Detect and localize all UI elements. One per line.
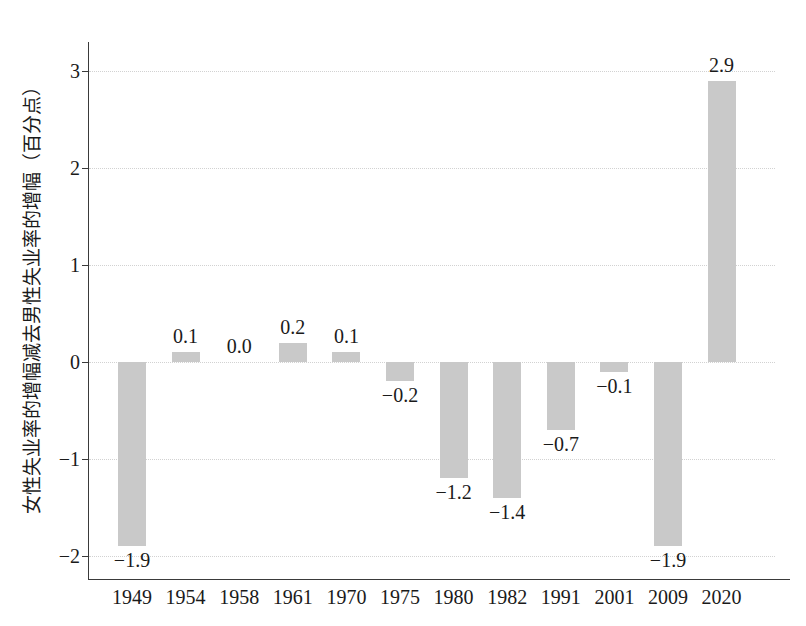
y-tick-mark (82, 556, 88, 557)
bar-value-label: 0.1 (173, 326, 198, 346)
plot-area: 3210−1−2 −1.90.10.00.20.1−0.2−1.2−1.4−0.… (88, 42, 790, 580)
x-tick-label: 1954 (166, 586, 206, 609)
bar (708, 81, 736, 362)
bar-value-label: 0.1 (334, 326, 359, 346)
x-tick-label: 1949 (112, 586, 152, 609)
x-tick-label: 1958 (219, 586, 259, 609)
y-tick-label: 2 (70, 157, 80, 180)
bar-value-label: −0.2 (382, 385, 418, 405)
bar-chart-figure: 女性失业率的增幅减去男性失业率的增幅（百分点） 3210−1−2 −1.90.1… (0, 0, 806, 626)
bar (118, 362, 146, 546)
bar-value-label: −0.7 (543, 434, 579, 454)
x-tick-label: 2020 (702, 586, 742, 609)
y-tick-mark (82, 71, 88, 72)
x-tick-label: 1961 (273, 586, 313, 609)
bar (279, 343, 307, 362)
y-tick-label: 1 (70, 253, 80, 276)
bar (172, 352, 200, 362)
x-tick-label: 2001 (594, 586, 634, 609)
bar (386, 362, 414, 381)
y-axis-title: 女性失业率的增幅减去男性失业率的增幅（百分点） (17, 77, 44, 514)
x-tick-label: 1980 (434, 586, 474, 609)
y-tick-label: 3 (70, 60, 80, 83)
bar (440, 362, 468, 478)
bar-value-label: 2.9 (709, 55, 734, 75)
gridline-2 (89, 168, 775, 169)
bar (654, 362, 682, 546)
gridline-1 (89, 265, 775, 266)
y-axis-title-container: 女性失业率的增幅减去男性失业率的增幅（百分点） (8, 0, 52, 590)
bar (493, 362, 521, 498)
x-axis-spine (88, 579, 790, 580)
y-tick-label: −2 (59, 544, 80, 567)
y-tick-mark (82, 168, 88, 169)
bar-value-label: 0.0 (227, 336, 252, 356)
bar-value-label: −1.9 (114, 550, 150, 570)
y-tick-label: −1 (59, 447, 80, 470)
bar-value-label: −1.9 (650, 550, 686, 570)
x-tick-label: 1975 (380, 586, 420, 609)
y-tick-mark (82, 459, 88, 460)
y-axis-spine (88, 42, 89, 580)
x-tick-label: 1970 (326, 586, 366, 609)
gridline-3 (89, 71, 775, 72)
bar (547, 362, 575, 430)
x-tick-label: 1982 (487, 586, 527, 609)
y-tick-mark (82, 265, 88, 266)
bar (600, 362, 628, 372)
bar-value-label: 0.2 (280, 317, 305, 337)
bar-value-label: −1.2 (435, 482, 471, 502)
x-tick-label: 2009 (648, 586, 688, 609)
bar-value-label: −0.1 (596, 376, 632, 396)
y-tick-mark (82, 362, 88, 363)
x-tick-label: 1991 (541, 586, 581, 609)
bar-value-label: −1.4 (489, 502, 525, 522)
y-tick-label: 0 (70, 350, 80, 373)
bar (332, 352, 360, 362)
